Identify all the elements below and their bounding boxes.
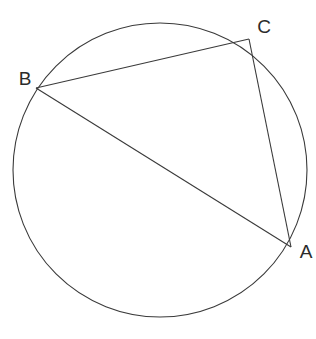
geometry-canvas: A B C [0, 0, 316, 339]
circumcircle [13, 23, 307, 317]
vertex-label-a: A [300, 241, 313, 262]
chord-ba [36, 88, 291, 247]
chord-bc [36, 39, 249, 88]
vertex-label-c: C [257, 16, 271, 37]
vertex-label-b: B [19, 68, 32, 89]
geometry-figure: A B C [0, 0, 316, 339]
chord-ca [249, 39, 291, 247]
